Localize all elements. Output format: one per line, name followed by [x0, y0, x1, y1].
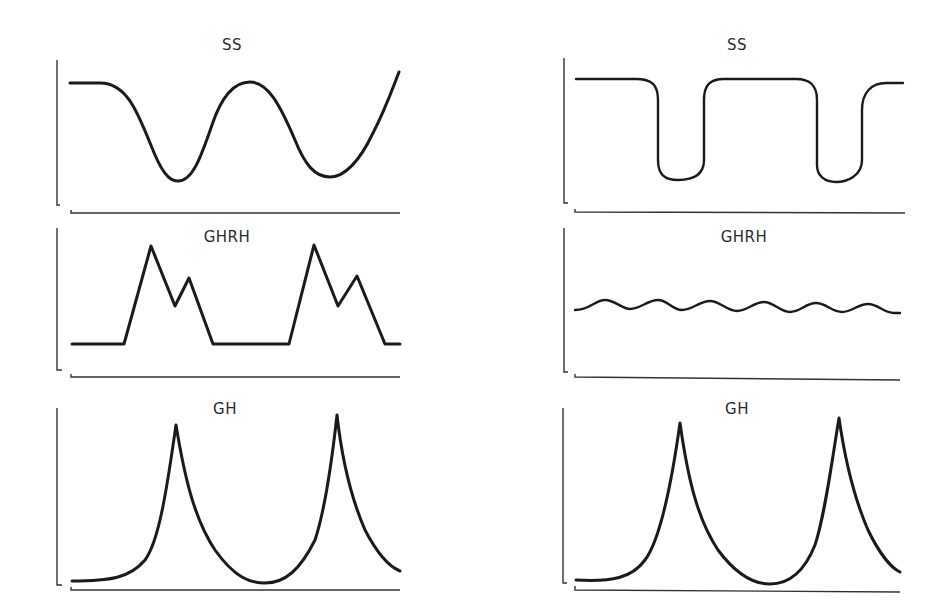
ghrh-curve: [575, 300, 900, 313]
ss-curve: [576, 79, 903, 182]
plot-left-ss: [57, 60, 400, 213]
plot-right-ss: [564, 58, 905, 213]
x-axis: [575, 209, 905, 213]
plots-canvas: [0, 0, 945, 615]
y-axis: [57, 228, 62, 370]
plot-right-ghrh: [564, 228, 900, 380]
x-axis: [71, 210, 400, 213]
plot-left-ghrh: [57, 228, 400, 377]
y-axis: [564, 58, 568, 203]
y-axis: [563, 408, 567, 583]
x-axis: [575, 586, 900, 592]
x-axis: [71, 587, 400, 590]
ss-curve: [70, 72, 399, 181]
y-axis: [57, 408, 62, 585]
gh-curve: [576, 418, 900, 584]
y-axis: [564, 228, 568, 372]
ghrh-curve: [72, 245, 400, 344]
figure: SS SS GHRH GHRH GH GH: [0, 0, 945, 615]
x-axis: [71, 374, 400, 377]
plot-right-gh: [563, 408, 900, 592]
gh-curve: [72, 415, 400, 583]
y-axis: [57, 60, 60, 205]
plot-left-gh: [57, 408, 400, 590]
x-axis: [575, 374, 900, 380]
